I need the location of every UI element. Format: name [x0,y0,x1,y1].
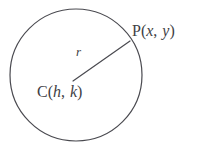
center-c-label: C(h, k) [37,84,82,100]
point-p-name: P [132,22,141,39]
center-c-separator: , [61,83,70,100]
point-p-close-paren: ) [169,22,174,39]
circle-diagram-figure: P(x, y) C(h, k) r [0,0,205,145]
center-c-name: C [37,83,48,100]
center-c-var-h: h [53,83,61,100]
point-p-label: P(x, y) [132,23,175,39]
point-p-separator: , [153,22,162,39]
radius-symbol: r [76,44,81,59]
circle-outline [10,9,142,141]
center-c-close-paren: ) [77,83,82,100]
radius-segment [73,41,130,81]
radius-label: r [76,45,81,58]
